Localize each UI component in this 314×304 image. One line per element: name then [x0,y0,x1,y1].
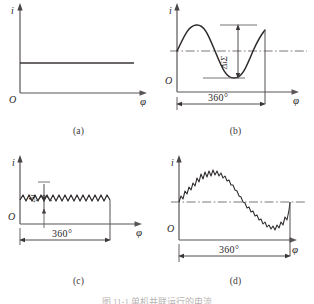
y-axis-label-a: i [11,6,14,16]
y-axis-arrow-b [174,3,179,11]
panel-a: i O φ (a) [0,0,157,152]
figure-container: i O φ (a) [0,0,314,304]
period-label-b: 360° [208,93,228,103]
x-axis-label-a: φ [140,96,146,107]
y-axis-arrow-c [17,155,22,163]
y-axis-label-d: i [171,158,174,168]
x-axis-arrow-d [290,237,298,242]
panel-c: i O φ 360° Δi (c) [0,152,157,304]
origin-label-d: O [167,224,174,234]
y-axis-label-c: i [12,158,15,168]
panel-caption-b: (b) [157,126,314,136]
origin-label-a: O [9,95,16,105]
delta-label-b: ΔiΣ [220,56,229,69]
y-axis-arrow-a [17,3,22,11]
x-axis-label-d: φ [292,244,298,255]
origin-label-b: O [165,76,172,86]
panel-b: i O φ 360° ΔiΣ (b) [157,0,314,152]
panel-caption-d: (d) [157,276,314,286]
delta-label-c: Δi [28,194,37,202]
figure-caption: 图 11-1 单机并联运行的电流 [0,295,314,304]
x-axis-label-b: φ [293,95,299,106]
sine-curve-b [177,25,265,78]
origin-label-c: O [8,212,15,222]
x-axis-label-c: φ [136,227,142,238]
panel-caption-a: (a) [0,126,157,136]
period-label-c: 360° [52,229,72,239]
panel-d: i O φ 360° (d) [157,152,314,304]
panel-caption-c: (c) [0,276,157,286]
y-axis-label-b: i [169,6,172,16]
sine-ripple-curve-d [179,170,290,230]
y-axis-arrow-d [176,155,181,163]
period-label-d: 360° [219,245,239,255]
